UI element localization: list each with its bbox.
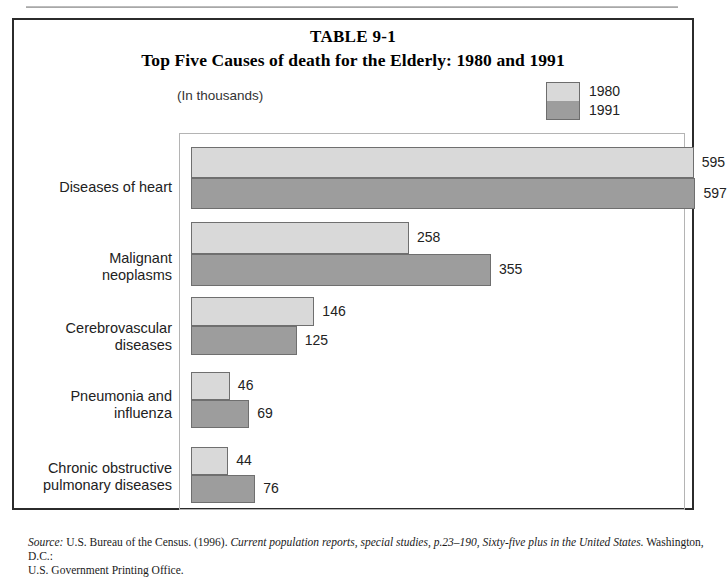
category-label-line: pulmonary diseases	[22, 477, 172, 494]
bar-value-1980-4: 46	[238, 377, 254, 393]
table-container: TABLE 9-1 Top Five Causes of death for t…	[12, 18, 694, 510]
category-label-3: Cerebrovasculardiseases	[22, 320, 172, 354]
source-note: Source: U.S. Bureau of the Census. (1996…	[28, 535, 706, 577]
bar-1991-2	[191, 254, 491, 286]
category-label-5: Chronic obstructivepulmonary diseases	[22, 460, 172, 494]
bar-1980-4	[191, 372, 230, 400]
bar-1980-5	[191, 447, 228, 475]
bar-value-1980-1: 595	[702, 154, 725, 170]
category-label-line: Cerebrovascular	[22, 320, 172, 337]
source-body-1: U.S. Bureau of the Census. (1996).	[63, 536, 230, 548]
table-number: TABLE 9-1	[14, 26, 692, 48]
legend-label-1980: 1980	[589, 82, 620, 101]
plot-area: 59559725835514612546694476	[179, 133, 685, 510]
category-label-1: Diseases of heart	[22, 179, 172, 196]
category-label-line: Diseases of heart	[22, 179, 172, 196]
chart-meta-row: (In thousands) 1980 1991	[14, 82, 692, 126]
title-block: TABLE 9-1 Top Five Causes of death for t…	[14, 20, 692, 72]
units-label: (In thousands)	[177, 88, 263, 103]
bar-1980-1	[191, 147, 694, 178]
legend-swatch-group	[546, 82, 580, 120]
bar-1991-3	[191, 326, 297, 355]
legend-label-group: 1980 1991	[589, 82, 620, 120]
chart-legend: 1980 1991	[546, 82, 620, 120]
source-italic-1: Current population reports, special stud…	[230, 536, 643, 548]
table-title: Top Five Causes of death for the Elderly…	[14, 48, 692, 72]
category-label-line: Chronic obstructive	[22, 460, 172, 477]
legend-swatch-1980	[547, 83, 579, 101]
bar-value-1980-3: 146	[322, 303, 345, 319]
bar-1980-2	[191, 222, 409, 254]
category-label-4: Pneumonia andinfluenza	[22, 388, 172, 422]
bar-1991-5	[191, 475, 255, 503]
bar-value-1991-1: 597	[703, 185, 726, 201]
legend-label-1991: 1991	[589, 101, 620, 120]
bars-container: 59559725835514612546694476	[180, 134, 684, 509]
bar-1991-4	[191, 400, 249, 428]
category-label-line: neoplasms	[22, 267, 172, 284]
bar-1980-3	[191, 297, 314, 326]
category-label-line: influenza	[22, 405, 172, 422]
bar-value-1991-3: 125	[305, 332, 328, 348]
bar-value-1980-2: 258	[417, 229, 440, 245]
category-label-line: Pneumonia and	[22, 388, 172, 405]
bar-value-1991-5: 76	[263, 480, 279, 496]
bar-value-1991-4: 69	[257, 405, 273, 421]
source-prefix: Source:	[28, 536, 63, 548]
page-top-rule	[26, 6, 678, 8]
category-label-2: Malignantneoplasms	[22, 250, 172, 284]
category-label-line: Malignant	[22, 250, 172, 267]
category-label-line: diseases	[22, 337, 172, 354]
bar-1991-1	[191, 178, 695, 209]
legend-swatch-1991	[547, 101, 579, 119]
source-note-line-1: Source: U.S. Bureau of the Census. (1996…	[28, 535, 706, 563]
source-note-line-2: U.S. Government Printing Office.	[28, 563, 706, 577]
bar-value-1991-2: 355	[499, 261, 522, 277]
bar-value-1980-5: 44	[236, 452, 252, 468]
